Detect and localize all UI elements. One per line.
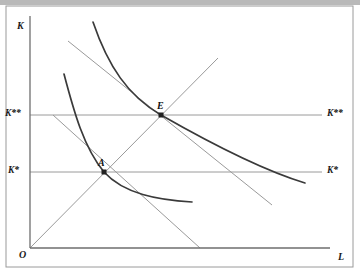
origin-label: O (19, 249, 26, 260)
economics-diagram-figure: K L O K** K** K* K* A E (0, 0, 360, 273)
plot-canvas (0, 0, 360, 273)
x-axis-title: L (338, 251, 344, 262)
point-marker-a (102, 170, 107, 175)
isocost-line-low (53, 115, 200, 248)
isoquant-curve-high (93, 22, 305, 183)
tick-label-k-star-right: K* (327, 165, 338, 175)
tick-label-k-doublestar-left: K** (5, 108, 21, 118)
point-marker-e (159, 113, 164, 118)
tick-label-k-star-left: K* (8, 165, 19, 175)
figure-border (6, 6, 353, 267)
point-label-e: E (157, 100, 164, 111)
tick-label-k-doublestar-right: K** (327, 108, 343, 118)
y-axis-title: K (17, 20, 24, 31)
point-label-a: A (98, 157, 105, 168)
isocost-line-high (68, 41, 272, 205)
